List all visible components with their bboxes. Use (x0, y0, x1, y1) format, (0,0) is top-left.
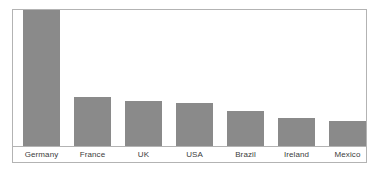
x-tick-label-france: France (67, 150, 118, 160)
chart-plot-frame: Germany France UK USA Brazil Ireland Mex… (12, 9, 367, 163)
x-tick-label-germany: Germany (16, 150, 67, 160)
x-tick-label-uk: UK (118, 150, 169, 160)
bar-chart: Germany France UK USA Brazil Ireland Mex… (0, 0, 381, 173)
x-tick-label-usa: USA (169, 150, 220, 160)
x-tick-label-ireland: Ireland (271, 150, 322, 160)
bar-germany[interactable] (23, 10, 60, 147)
chart-plot-area (13, 10, 366, 147)
bar-brazil[interactable] (227, 111, 264, 147)
x-tick-label-brazil: Brazil (220, 150, 271, 160)
x-axis-tick-labels: Germany France UK USA Brazil Ireland Mex… (13, 147, 366, 162)
bar-mexico[interactable] (329, 121, 366, 147)
x-tick-label-mexico: Mexico (322, 150, 373, 160)
bar-uk[interactable] (125, 101, 162, 147)
bar-ireland[interactable] (278, 118, 315, 147)
bar-france[interactable] (74, 97, 111, 147)
bar-usa[interactable] (176, 103, 213, 147)
